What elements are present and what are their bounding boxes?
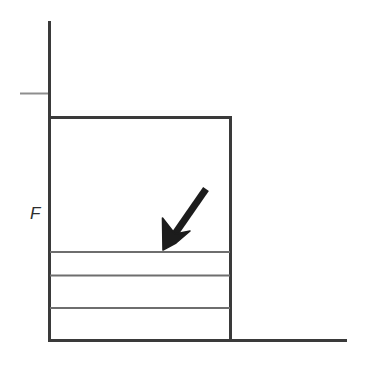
- figure-canvas: F: [0, 0, 374, 366]
- diagram-svg: F: [0, 0, 374, 366]
- force-label: F: [30, 204, 42, 223]
